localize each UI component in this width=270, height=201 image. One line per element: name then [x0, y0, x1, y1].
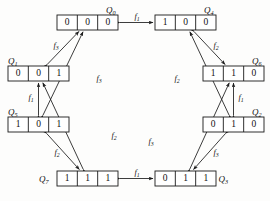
state-bit: 1 — [231, 68, 236, 78]
state-box-q2: 010 — [203, 117, 264, 132]
edge-label-q4-q6: f2 — [213, 41, 218, 51]
state-bit: 0 — [85, 17, 90, 27]
state-box-q6: 110 — [203, 66, 264, 81]
state-bit: 0 — [251, 119, 256, 129]
state-bit: 0 — [163, 173, 168, 183]
edge-label-q1-q0: f3 — [53, 41, 58, 51]
edge-label-q2-q6: f1 — [238, 93, 243, 103]
edge-label-q3-q6: f3 — [148, 137, 153, 147]
edge-label-q2-q3: f3 — [213, 148, 218, 158]
labels-layer: Q0Q4Q1Q6Q5Q2Q7Q3f1f1f1f1f3f2f3f2f2f3f2f3 — [8, 5, 263, 185]
state-bit: 0 — [211, 119, 216, 129]
state-bit: 0 — [203, 17, 208, 27]
edge-label-q0-q4: f1 — [134, 12, 139, 22]
state-bit: 1 — [231, 119, 236, 129]
edge-label-q5-q1: f1 — [28, 93, 33, 103]
edge-q1-q0 — [47, 31, 79, 64]
state-bit: 1 — [203, 173, 208, 183]
state-name-q7: Q7 — [39, 174, 50, 185]
state-bit: 1 — [211, 68, 216, 78]
state-bit: 0 — [183, 17, 188, 27]
state-bit: 0 — [36, 119, 41, 129]
state-bit: 1 — [183, 173, 188, 183]
state-bit: 1 — [65, 173, 70, 183]
state-bit: 1 — [16, 119, 21, 129]
state-name-q3: Q3 — [219, 174, 229, 185]
state-bit: 0 — [251, 68, 256, 78]
diagram-canvas: 000100001110101010111011 Q0Q4Q1Q6Q5Q2Q7Q… — [0, 0, 270, 201]
state-box-q5: 101 — [8, 117, 69, 132]
state-box-q0: 000 — [57, 15, 118, 30]
state-bit: 1 — [163, 17, 168, 27]
state-bit: 1 — [56, 68, 61, 78]
state-box-q3: 011 — [155, 171, 216, 186]
edge-label-q5-q7: f2 — [54, 148, 59, 158]
state-name-q5: Q5 — [8, 107, 18, 118]
state-bit: 1 — [56, 119, 61, 129]
edge-label-q2-q4: f2 — [174, 74, 179, 84]
state-transition-figure: 000100001110101010111011 Q0Q4Q1Q6Q5Q2Q7Q… — [0, 0, 270, 201]
state-name-q2: Q2 — [252, 107, 262, 118]
edge-label-q7-q3: f1 — [134, 168, 139, 178]
state-name-q6: Q6 — [252, 56, 263, 67]
state-box-q7: 111 — [57, 171, 118, 186]
state-boxes-layer: 000100001110101010111011 — [8, 15, 264, 186]
state-bit: 0 — [105, 17, 110, 27]
state-bit: 1 — [105, 173, 110, 183]
state-box-q4: 100 — [155, 15, 216, 30]
edge-label-q7-q1: f2 — [111, 131, 116, 141]
state-name-q4: Q4 — [204, 5, 214, 16]
state-bit: 1 — [85, 173, 90, 183]
edge-label-q5-q0: f3 — [96, 74, 101, 84]
state-bit: 0 — [65, 17, 70, 27]
state-name-q0: Q0 — [106, 5, 117, 16]
edge-q4-q6 — [194, 31, 225, 64]
state-bit: 0 — [16, 68, 21, 78]
state-box-q1: 001 — [8, 66, 69, 81]
state-name-q1: Q1 — [8, 56, 18, 67]
state-bit: 0 — [36, 68, 41, 78]
edges-layer — [39, 23, 234, 179]
